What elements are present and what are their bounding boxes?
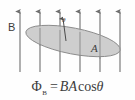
formula-equals-sign: = [48, 79, 60, 94]
formula-expression: ΦB=BAcosθ [32, 79, 104, 97]
loop-ellipse-group [23, 19, 122, 63]
loop-ellipse [23, 19, 122, 63]
field-label-b: B [8, 21, 15, 33]
formula-theta-variable: θ [97, 79, 104, 94]
formula-a-variable: A [68, 79, 77, 94]
flux-formula: ΦB=BAcosθ [0, 76, 135, 100]
formula-subscript-b: B [42, 89, 48, 97]
area-label-a: A [90, 42, 98, 54]
magnetic-flux-figure: B A θ ΦB=BAcosθ [0, 0, 135, 100]
angle-label-theta: θ [62, 16, 66, 24]
formula-cos-function: cos [77, 79, 97, 94]
formula-phi-symbol: Φ [32, 79, 42, 94]
